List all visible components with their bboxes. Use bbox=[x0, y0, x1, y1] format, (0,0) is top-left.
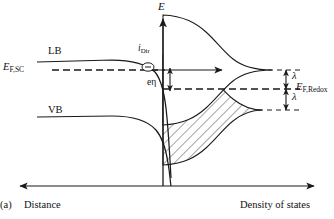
overpotential-label: eη bbox=[147, 78, 156, 88]
density-of-states-axis-label: Density of states bbox=[240, 200, 310, 211]
direct-current-subscript: Dir bbox=[141, 47, 150, 54]
lambda-lower-label: λ bbox=[292, 92, 297, 103]
conduction-band-label: LB bbox=[48, 46, 61, 57]
direct-current-label: iDir bbox=[138, 44, 150, 54]
energy-band-diagram-figure: E LB VB EF,SC EF,Redox iDir eη λ λ (a) D… bbox=[0, 0, 334, 219]
lambda-upper-label: λ bbox=[292, 71, 297, 82]
fermi-level-redox-label: EF,Redox bbox=[296, 82, 328, 93]
fermi-level-semiconductor-label: EF,SC bbox=[3, 62, 24, 73]
fermi-redox-subscript: F,Redox bbox=[302, 85, 327, 94]
distance-axis-label: Distance bbox=[24, 200, 61, 211]
panel-label: (a) bbox=[0, 200, 12, 211]
valence-band-edge bbox=[37, 116, 171, 186]
fermi-sc-subscript: F,SC bbox=[9, 65, 24, 74]
valence-band-label: VB bbox=[48, 105, 63, 116]
electron-icon bbox=[142, 63, 154, 71]
energy-axis-label: E bbox=[158, 1, 165, 12]
